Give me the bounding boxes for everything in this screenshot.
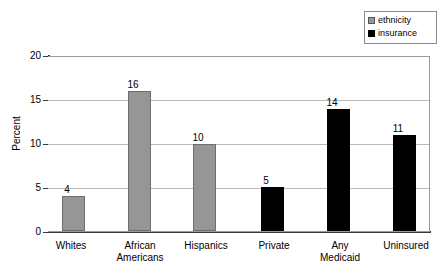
- legend-label-insurance: insurance: [378, 27, 417, 40]
- legend-item-ethnicity: ethnicity: [368, 14, 433, 27]
- bar-value-uninsured: 11: [378, 124, 418, 134]
- gridline-15: [48, 100, 429, 101]
- category-label-african-americans-line2: Americans: [104, 252, 176, 264]
- category-label-any-medicaid-line2: Medicaid: [304, 252, 376, 264]
- legend-swatch-ethnicity-icon: [368, 17, 375, 24]
- gridline-10: [48, 144, 429, 145]
- category-label-african-americans-line1: African: [104, 240, 176, 252]
- legend-label-ethnicity: ethnicity: [378, 14, 411, 27]
- bar-uninsured[interactable]: [393, 135, 416, 231]
- bar-private[interactable]: [261, 187, 284, 231]
- category-label-any-medicaid: Any Medicaid: [304, 240, 376, 264]
- bar-value-hispanics: 10: [178, 133, 218, 143]
- bar-african-americans[interactable]: [128, 91, 151, 231]
- chart-legend: ethnicity insurance: [364, 11, 437, 44]
- bar-hispanics[interactable]: [193, 144, 216, 231]
- legend-swatch-insurance-icon: [368, 30, 375, 37]
- y-label-20: 20: [1, 51, 41, 61]
- bar-value-private: 5: [246, 176, 286, 186]
- bar-value-any-medicaid: 14: [312, 98, 352, 108]
- category-label-whites: Whites: [39, 240, 103, 252]
- plot-area: [48, 56, 430, 232]
- y-tick-0: [43, 232, 49, 233]
- category-label-uninsured: Uninsured: [370, 240, 442, 252]
- category-label-african-americans: African Americans: [104, 240, 176, 264]
- bar-value-african-americans: 16: [113, 80, 153, 90]
- y-label-5: 5: [1, 183, 41, 193]
- y-label-0: 0: [1, 227, 41, 237]
- bar-value-whites: 4: [47, 185, 87, 195]
- category-label-private-line1: Private: [238, 240, 310, 252]
- legend-item-insurance: insurance: [368, 27, 433, 40]
- bar-whites[interactable]: [62, 196, 85, 231]
- y-axis-title: Percent: [11, 104, 22, 164]
- category-label-hispanics-line1: Hispanics: [170, 240, 242, 252]
- category-label-any-medicaid-line1: Any: [304, 240, 376, 252]
- category-label-whites-line1: Whites: [39, 240, 103, 252]
- category-label-uninsured-line1: Uninsured: [370, 240, 442, 252]
- gridline-5: [48, 188, 429, 189]
- category-label-private: Private: [238, 240, 310, 252]
- bar-any-medicaid[interactable]: [327, 109, 350, 231]
- category-label-hispanics: Hispanics: [170, 240, 242, 252]
